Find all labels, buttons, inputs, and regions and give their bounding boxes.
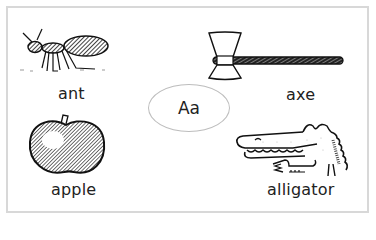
- word-label-axe: axe: [286, 85, 315, 104]
- letter-label: Aa: [178, 98, 200, 118]
- ant-icon: [20, 24, 115, 76]
- word-label-alligator: alligator: [267, 180, 335, 199]
- apple-icon: [26, 112, 108, 180]
- axe-icon: [205, 30, 347, 84]
- letter-oval: Aa: [148, 84, 230, 132]
- alligator-icon: [233, 120, 351, 180]
- word-label-ant: ant: [58, 84, 85, 103]
- word-label-apple: apple: [51, 180, 96, 199]
